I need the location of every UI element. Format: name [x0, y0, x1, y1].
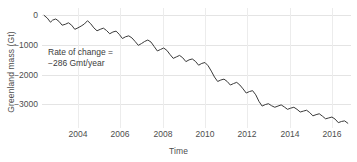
- x-tick-label: 2012: [227, 129, 267, 139]
- x-tick-label: 2014: [270, 129, 310, 139]
- y-tick-label: −1000: [14, 41, 38, 50]
- x-tick-label: 2006: [100, 129, 140, 139]
- rate-of-change-annotation: Rate of change = −286 Gmt/year: [48, 47, 113, 69]
- x-tick-label: 2016: [312, 129, 352, 139]
- x-tick-label: 2008: [143, 129, 183, 139]
- greenland-mass-line-chart: Greenland mass (Gt) Time 0−1000−2000−300…: [0, 0, 357, 162]
- x-tick-label: 2010: [185, 129, 225, 139]
- rate-of-change-line-1: Rate of change =: [48, 47, 113, 58]
- x-axis-title: Time: [0, 146, 357, 156]
- y-tick-label: 0: [33, 11, 38, 20]
- y-tick-label: −2000: [14, 71, 38, 80]
- x-tick-label: 2004: [58, 129, 98, 139]
- rate-of-change-line-2: −286 Gmt/year: [48, 58, 113, 69]
- y-tick-label: −3000: [14, 100, 38, 109]
